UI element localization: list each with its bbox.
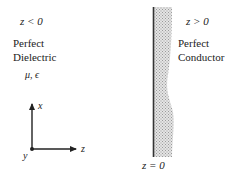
right-material-line1: Perfect	[178, 37, 209, 49]
left-condition-label: z < 0	[19, 15, 43, 27]
y-axis-dot-icon	[30, 147, 34, 151]
left-material-line2: Dielectric	[13, 51, 56, 63]
right-condition-label: z > 0	[185, 15, 209, 27]
x-axis-label: x	[37, 100, 43, 111]
y-axis-label: y	[22, 150, 28, 161]
right-material-line2: Conductor	[178, 51, 225, 63]
left-material-line1: Perfect	[13, 37, 44, 49]
z-axis-label: z	[80, 143, 85, 154]
material-params-label: μ, ϵ	[24, 69, 40, 80]
boundary-label: z = 0	[141, 159, 165, 171]
conductor-region	[153, 7, 174, 157]
coordinate-axes: x z y	[22, 100, 85, 161]
diagram-canvas: z < 0 Perfect Dielectric μ, ϵ z > 0 Perf…	[0, 0, 240, 175]
